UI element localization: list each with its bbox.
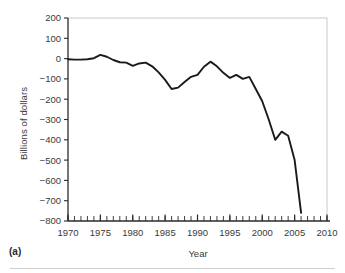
x-tick-label: 1975 [90, 227, 111, 238]
y-tick-label: −400 [40, 134, 61, 145]
x-tick-label: 1980 [122, 227, 143, 238]
y-tick-label: −100 [40, 73, 61, 84]
budget-deficit-line-chart: 2001000−100−200−300−400−500−600−700−800 … [0, 0, 345, 273]
x-tick-label: 1985 [155, 227, 176, 238]
y-tick-label: −500 [40, 155, 61, 166]
y-tick-label: 0 [56, 53, 61, 64]
x-tick-label: 1995 [219, 227, 240, 238]
y-tick-label: 100 [45, 33, 61, 44]
y-tick-label: −700 [40, 195, 61, 206]
y-tick-label: −300 [40, 114, 61, 125]
x-axis-title: Year [68, 248, 328, 259]
figure-divider [10, 268, 335, 269]
y-axis-title: Billions of dollars [18, 49, 29, 199]
y-tick-label: −800 [40, 215, 61, 226]
y-axis-tick-labels: 2001000−100−200−300−400−500−600−700−800 [40, 12, 61, 226]
x-tick-label: 1970 [57, 227, 78, 238]
y-tick-label: −600 [40, 175, 61, 186]
figure-page: 2001000−100−200−300−400−500−600−700−800 … [0, 0, 345, 273]
y-tick-label: 200 [45, 12, 61, 23]
y-tick-label: −200 [40, 94, 61, 105]
chart-figure: 2001000−100−200−300−400−500−600−700−800 … [0, 0, 345, 273]
x-tick-label: 2005 [284, 227, 305, 238]
x-tick-label: 2000 [252, 227, 273, 238]
x-tick-label: 1990 [187, 227, 208, 238]
plot-background [68, 18, 327, 221]
x-tick-label: 2010 [316, 227, 337, 238]
panel-caption: (a) [9, 246, 21, 257]
x-axis-tick-labels: 197019751980198519901995200020052010 [57, 227, 337, 238]
